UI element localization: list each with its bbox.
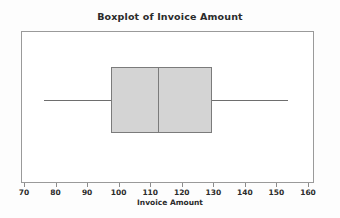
x-tick-mark xyxy=(24,183,25,187)
boxplot-chart: Boxplot of Invoice Amount 70809010011012… xyxy=(0,0,340,218)
x-tick-mark xyxy=(276,183,277,187)
x-tick-label: 70 xyxy=(19,188,29,197)
x-tick-label: 160 xyxy=(300,188,316,197)
x-tick-label: 120 xyxy=(174,188,190,197)
x-tick-mark xyxy=(119,183,120,187)
x-tick-mark xyxy=(213,183,214,187)
plot-frame xyxy=(21,31,314,183)
x-tick-label: 130 xyxy=(206,188,222,197)
x-tick-label: 110 xyxy=(142,188,158,197)
x-tick-mark xyxy=(308,183,309,187)
x-tick-label: 150 xyxy=(269,188,285,197)
x-axis-label: Invoice Amount xyxy=(0,198,340,207)
x-tick-mark xyxy=(150,183,151,187)
x-tick-label: 90 xyxy=(82,188,92,197)
x-tick-mark xyxy=(87,183,88,187)
x-tick-mark xyxy=(56,183,57,187)
x-tick-mark xyxy=(182,183,183,187)
x-tick-label: 80 xyxy=(50,188,60,197)
x-tick-mark xyxy=(245,183,246,187)
chart-title: Boxplot of Invoice Amount xyxy=(0,11,340,22)
x-tick-label: 100 xyxy=(111,188,127,197)
x-tick-label: 140 xyxy=(237,188,253,197)
